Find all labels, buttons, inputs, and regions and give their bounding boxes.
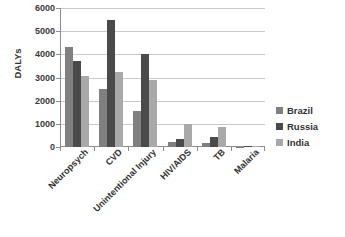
y-tick-label: 6000 [17,3,55,13]
bar [81,76,89,147]
bar-chart: DALYs 0100020003000400050006000 Neuropsy… [0,0,345,237]
x-tick-label: CVD [104,147,125,168]
bar [141,54,149,147]
legend-item: Brazil [276,102,342,118]
chart-legend: BrazilRussiaIndia [276,102,342,150]
x-tick-label: HIV/AIDS [158,147,193,182]
bar [115,72,123,147]
x-axis-tick-labels: NeuropsychCVDUnintentional InjuryHIV/AID… [60,147,265,235]
bar-group [128,8,162,147]
bar [149,80,157,147]
legend-item: Russia [276,118,342,134]
legend-swatch-icon [276,107,283,114]
y-axis-tick [56,101,60,102]
legend-label: India [287,137,309,148]
y-axis-tick [56,8,60,9]
y-tick-label: 5000 [17,26,55,36]
y-tick-label: 1000 [17,119,55,129]
legend-swatch-icon [276,123,283,130]
legend-swatch-icon [276,139,283,146]
legend-label: Russia [287,121,318,132]
bar [210,137,218,147]
bar-group [163,8,197,147]
bar [176,139,184,147]
bar [184,124,192,147]
x-tick-label: Unintentional Injury [92,147,159,214]
y-axis-tick [56,124,60,125]
plot-area [60,8,265,147]
bar [73,61,81,147]
x-tick-label: Malaria [232,147,261,176]
x-tick-label: Neuropsych [46,147,90,191]
bar-group [231,8,265,147]
legend-label: Brazil [287,105,313,116]
bar-group [60,8,94,147]
bar-group [197,8,231,147]
bar-groups [60,8,265,147]
bar [99,89,107,147]
legend-item: India [276,134,342,150]
y-tick-label: 4000 [17,49,55,59]
y-axis-tick [56,31,60,32]
bar [218,127,226,147]
y-axis-tick-labels: 0100020003000400050006000 [17,8,55,147]
bar [133,111,141,147]
x-tick-label: TB [211,147,227,163]
bar [65,47,73,147]
y-axis-tick [56,54,60,55]
bar [107,20,115,147]
y-tick-label: 0 [17,142,55,152]
bar-group [94,8,128,147]
y-tick-label: 3000 [17,73,55,83]
y-tick-label: 2000 [17,96,55,106]
y-axis-tick [56,78,60,79]
